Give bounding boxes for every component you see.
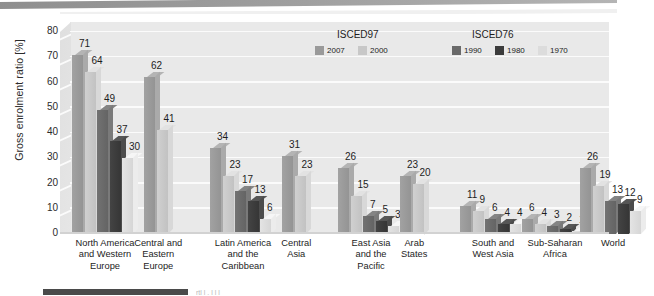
category-label-line: Africa bbox=[516, 249, 594, 260]
bar-front bbox=[400, 176, 411, 234]
bar-south-2000[interactable] bbox=[473, 211, 484, 234]
bar-value-label: 23 bbox=[230, 159, 270, 170]
legend-swatch-1990 bbox=[452, 46, 461, 55]
bar-value-label: 19 bbox=[600, 169, 640, 180]
bar-front bbox=[248, 201, 259, 234]
bar-front bbox=[413, 184, 424, 235]
bar-arab-2007[interactable] bbox=[400, 176, 411, 234]
bar-world-1980[interactable] bbox=[618, 204, 629, 234]
legend-group-title-ISCED97: ISCED97 bbox=[337, 29, 379, 40]
bottom-cutoff-element: rtl l . l l l bbox=[0, 288, 617, 296]
legend-item-2000[interactable]: 2000 bbox=[358, 46, 388, 55]
bar-front bbox=[295, 176, 306, 234]
legend-label-2000: 2000 bbox=[370, 46, 388, 55]
bar-latin-1990[interactable] bbox=[235, 191, 246, 234]
legend-label-1990: 1990 bbox=[464, 46, 482, 55]
bar-world-2000[interactable] bbox=[593, 186, 604, 234]
y-tick-50: 50 bbox=[18, 100, 58, 111]
bar-value-label: 62 bbox=[151, 60, 191, 71]
bar-central-2007[interactable] bbox=[282, 156, 293, 234]
bar-world-2007[interactable] bbox=[580, 168, 591, 234]
bar-front bbox=[580, 168, 591, 234]
bar-latin-2000[interactable] bbox=[223, 176, 234, 234]
bar-value-label: 31 bbox=[289, 139, 329, 150]
bottom-note: rtl l . l l l bbox=[196, 289, 220, 296]
bar-side-face bbox=[306, 171, 311, 234]
category-label-line: Asia bbox=[257, 249, 335, 260]
legend-item-2007[interactable]: 2007 bbox=[315, 46, 345, 55]
bar-front bbox=[282, 156, 293, 234]
bar-value-label: 64 bbox=[92, 55, 132, 66]
bar-side-face bbox=[424, 178, 429, 234]
x-axis-category-labels: North Americaand WesternEuropeCentral an… bbox=[60, 238, 609, 284]
legend-item-1980[interactable]: 1980 bbox=[495, 46, 525, 55]
bar-central-2000[interactable] bbox=[295, 176, 306, 234]
bar-front bbox=[351, 196, 362, 234]
legend-swatch-1980 bbox=[495, 46, 504, 55]
category-label-line: Pacific bbox=[332, 261, 410, 272]
top-decorative-band bbox=[0, 0, 617, 14]
bar-front bbox=[473, 211, 484, 234]
bar-value-label: 26 bbox=[587, 151, 627, 162]
bar-north-2007[interactable] bbox=[72, 55, 83, 234]
category-label-line: Central and bbox=[119, 238, 197, 249]
bar-value-label: 20 bbox=[420, 167, 460, 178]
category-label-line: Central bbox=[257, 238, 335, 249]
legend-item-1970[interactable]: 1970 bbox=[538, 46, 568, 55]
bar-side-face bbox=[133, 153, 138, 234]
legend-group-title-ISCED76: ISCED76 bbox=[472, 29, 514, 40]
bar-east-2007[interactable] bbox=[338, 168, 349, 234]
bar-side-face bbox=[641, 206, 646, 234]
top-band-stripe bbox=[0, 0, 617, 9]
y-tick-0: 0 bbox=[18, 227, 58, 238]
bar-east-2000[interactable] bbox=[351, 196, 362, 234]
bar-chart: Gross enrolment ratio [%] 01020304050607… bbox=[0, 16, 617, 288]
category-label-line: Caribbean bbox=[204, 261, 282, 272]
bar-front bbox=[338, 168, 349, 234]
bar-front bbox=[97, 110, 108, 234]
bar-latin-1980[interactable] bbox=[248, 201, 259, 234]
category-label-1: Central andEasternEurope bbox=[119, 238, 197, 272]
bar-front bbox=[630, 211, 641, 234]
bar-world-1990[interactable] bbox=[605, 201, 616, 234]
bar-south-2007[interactable] bbox=[460, 206, 471, 234]
y-tick-10: 10 bbox=[18, 201, 58, 212]
bar-front bbox=[605, 201, 616, 234]
bar-front bbox=[85, 72, 96, 234]
y-tick-40: 40 bbox=[18, 126, 58, 137]
bar-value-label: 9 bbox=[637, 194, 654, 205]
bar-front bbox=[223, 176, 234, 234]
bar-central-2007[interactable] bbox=[144, 77, 155, 234]
bar-value-label: 49 bbox=[104, 93, 144, 104]
bar-latin-2007[interactable] bbox=[210, 148, 221, 234]
category-label-line: States bbox=[375, 249, 453, 260]
bar-front bbox=[157, 130, 168, 234]
bar-value-label: 23 bbox=[302, 159, 342, 170]
chart-legend: ISCED9720072000ISCED76199019801970 bbox=[0, 14, 617, 54]
legend-label-2007: 2007 bbox=[327, 46, 345, 55]
legend-swatch-2000 bbox=[358, 46, 367, 55]
legend-swatch-1970 bbox=[538, 46, 547, 55]
bar-front bbox=[618, 204, 629, 234]
y-tick-30: 30 bbox=[18, 151, 58, 162]
bar-front bbox=[72, 55, 83, 234]
bar-front bbox=[122, 158, 133, 234]
bar-world-1970[interactable] bbox=[630, 211, 641, 234]
bar-north-1990[interactable] bbox=[97, 110, 108, 234]
bar-front bbox=[144, 77, 155, 234]
bar-north-1980[interactable] bbox=[110, 141, 121, 234]
category-label-line: Eastern bbox=[119, 249, 197, 260]
bar-central-2000[interactable] bbox=[157, 130, 168, 234]
bar-value-label: 41 bbox=[164, 113, 204, 124]
bar-side-face bbox=[168, 125, 173, 234]
x-axis-baseline bbox=[60, 232, 609, 234]
bar-north-2000[interactable] bbox=[85, 72, 96, 234]
legend-label-1980: 1980 bbox=[507, 46, 525, 55]
bar-front bbox=[593, 186, 604, 234]
bar-front bbox=[235, 191, 246, 234]
bar-north-1970[interactable] bbox=[122, 158, 133, 234]
bar-arab-2000[interactable] bbox=[413, 184, 424, 235]
category-label-line: Arab bbox=[375, 238, 453, 249]
legend-item-1990[interactable]: 1990 bbox=[452, 46, 482, 55]
bar-side-face bbox=[271, 214, 276, 234]
